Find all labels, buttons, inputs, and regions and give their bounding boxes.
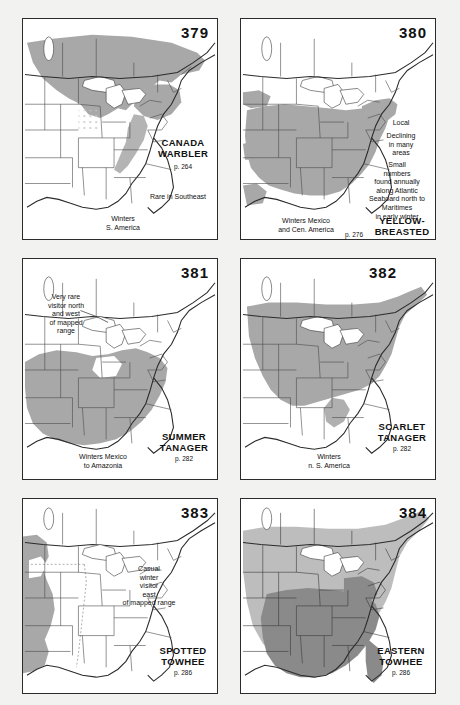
species-name-380: YELLOW- BREASTED CHAT [371,215,433,240]
map-panel-384[interactable]: 384 EASTERN TOWHEE p. 286 [240,498,436,694]
note-382-0: Winters n. S. America [291,453,367,470]
panel-number-384: 384 [399,504,427,521]
species-name-381: SUMMER TANAGER [153,431,215,453]
species-name-383: SPOTTED TOWHEE [151,645,215,667]
note-380-0: Local [367,119,435,128]
note-380-1: Declining in many areas [367,132,435,158]
map-panel-382[interactable]: 382 SCARLET TANAGER p. 282 Winters n. S.… [240,258,436,480]
note-380-2: Small numbers found annually along Atlan… [357,161,436,221]
map-panel-383[interactable]: 383 Casual winter visitor east of mapped… [22,498,218,694]
panel-number-381: 381 [181,264,209,281]
range-map-379 [23,19,217,239]
note-381-0: Very rare visitor north and west of mapp… [33,293,99,336]
map-page: 379 CANADA WARBLER p. 264 Rare in Southe… [0,0,460,705]
note-380-3: Winters Mexico and Cen. America [265,217,347,234]
page-ref-381: p. 282 [153,455,215,462]
species-name-384: EASTERN TOWHEE [369,645,433,667]
panel-number-383: 383 [181,504,209,521]
page-ref-384: p. 286 [369,669,433,676]
panel-number-379: 379 [181,24,209,41]
note-381-1: Winters Mexico to Amazonia [59,453,147,470]
note-379-0: Rare in Southeast [137,193,218,202]
page-ref-382: p. 282 [371,445,433,452]
species-name-382: SCARLET TANAGER [371,421,433,443]
note-379-1: Winters S. America [85,215,161,232]
page-ref-383: p. 286 [151,669,215,676]
note-383-0: Casual winter visitor east of mapped ran… [101,565,197,608]
species-name-379: CANADA WARBLER [151,137,215,159]
panel-number-382: 382 [369,264,397,281]
page-ref-379: p. 264 [151,163,215,170]
panel-number-380: 380 [399,24,427,41]
map-panel-379[interactable]: 379 CANADA WARBLER p. 264 Rare in Southe… [22,18,218,240]
map-panel-380[interactable]: 380 Local Declining in many areas Small … [240,18,436,240]
map-panel-381[interactable]: 381 Very rare visitor north and west of … [22,258,218,480]
